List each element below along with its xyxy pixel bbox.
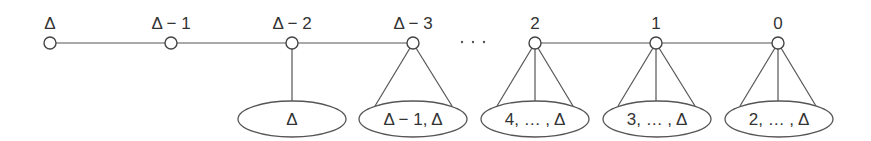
node-labels: Δ Δ − 1 Δ − 2 Δ − 3 2 1 0 xyxy=(44,14,782,33)
node-2 xyxy=(529,37,541,49)
node-delta xyxy=(44,37,56,49)
node-label: Δ xyxy=(44,14,55,33)
node-label: 2 xyxy=(530,14,539,33)
node-delta-minus-1 xyxy=(165,37,177,49)
group-label: Δ − 1, Δ xyxy=(383,110,442,129)
branch-delta-minus-3-left xyxy=(375,48,410,106)
node-label: Δ − 2 xyxy=(272,14,311,33)
node-label: Δ − 1 xyxy=(151,14,190,33)
node-label: Δ − 3 xyxy=(393,14,432,33)
group-label: Δ xyxy=(286,110,297,129)
node-label: 0 xyxy=(773,14,782,33)
node-delta-minus-2 xyxy=(286,37,298,49)
node-1 xyxy=(650,37,662,49)
branch-1-left xyxy=(618,48,653,106)
group-label: 3, … , Δ xyxy=(627,110,688,129)
path-diagram: Δ Δ − 1 Δ − 2 Δ − 3 2 1 0 Δ Δ − 1, Δ 4, … xyxy=(0,0,871,141)
group-label: 2, … , Δ xyxy=(749,110,810,129)
branch-2-right xyxy=(538,48,573,106)
branch-1-right xyxy=(659,48,695,106)
branch-edges xyxy=(292,48,816,106)
branch-delta-minus-3-right xyxy=(416,48,452,106)
branch-0-right xyxy=(781,48,816,106)
node-delta-minus-3 xyxy=(407,37,419,49)
group-label: 4, … , Δ xyxy=(505,110,566,129)
ellipsis-dots xyxy=(461,41,485,43)
node-label: 1 xyxy=(651,14,660,33)
branch-0-left xyxy=(740,48,775,106)
branch-2-left xyxy=(497,48,532,106)
node-0 xyxy=(772,37,784,49)
